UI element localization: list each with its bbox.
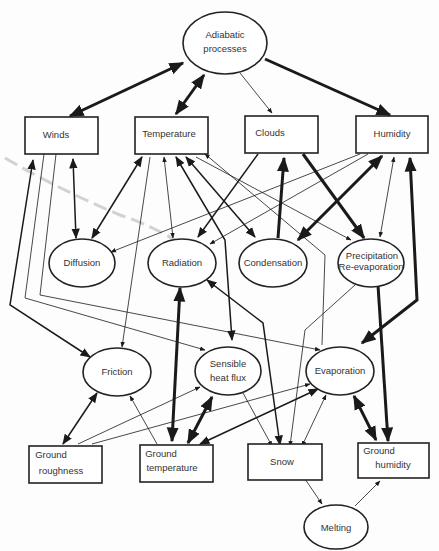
edge-condensation-clouds xyxy=(278,158,284,238)
node-winds: Winds xyxy=(25,117,98,154)
scan-smudge xyxy=(5,158,175,240)
diagram-svg: Adiabatic processes Winds Temperature Cl… xyxy=(0,0,439,551)
edge-adiabatic-winds xyxy=(70,63,183,116)
svg-text:Condensation: Condensation xyxy=(244,257,303,268)
node-ground-roughness: Ground roughness xyxy=(29,446,102,483)
svg-text:processes: processes xyxy=(203,43,247,54)
node-adiabatic-processes: Adiabatic processes xyxy=(183,12,267,74)
edge-temperature-friction xyxy=(122,157,150,347)
node-ground-temperature: Ground temperature xyxy=(140,445,213,482)
svg-text:Precipitation: Precipitation xyxy=(346,250,398,261)
edge-melting-groundhumidity xyxy=(355,481,380,506)
edge-evaporation-groundhumidity xyxy=(354,396,376,440)
svg-text:Ground: Ground xyxy=(35,449,67,460)
edge-temperature-condensation xyxy=(186,157,255,237)
edge-temperature-precipitation xyxy=(196,157,351,240)
edge-temperature-radiation xyxy=(164,157,173,238)
svg-text:Friction: Friction xyxy=(101,366,132,377)
svg-text:Melting: Melting xyxy=(321,522,352,533)
edge-humidity-condensation xyxy=(298,156,382,240)
node-condensation: Condensation xyxy=(239,239,307,287)
node-snow: Snow xyxy=(248,444,322,480)
edge-adiabatic-clouds xyxy=(240,73,272,113)
svg-text:Snow: Snow xyxy=(270,456,294,467)
svg-text:Temperature: Temperature xyxy=(142,128,195,139)
svg-text:Diffusion: Diffusion xyxy=(64,257,101,268)
node-clouds: Clouds xyxy=(245,116,318,153)
svg-text:Radiation: Radiation xyxy=(162,257,202,268)
svg-text:Ground: Ground xyxy=(145,448,177,459)
edge-precipitation-groundhumidity xyxy=(378,285,388,441)
svg-text:heat flux: heat flux xyxy=(210,372,246,383)
node-evaporation: Evaporation xyxy=(306,347,374,395)
edge-adiabatic-temperature xyxy=(176,75,204,114)
node-temperature: Temperature xyxy=(135,117,208,154)
node-melting: Melting xyxy=(304,505,368,549)
svg-text:roughness: roughness xyxy=(39,465,84,476)
edge-temperature-diffusion xyxy=(92,157,142,238)
node-humidity: Humidity xyxy=(356,116,428,153)
node-precipitation-reevaporation: Precipitation Re-evaporation xyxy=(338,239,404,287)
edge-groundtemp-sensible xyxy=(188,397,212,443)
svg-text:Sensible: Sensible xyxy=(210,358,246,369)
node-sensible-heat-flux: Sensible heat flux xyxy=(195,347,261,395)
diagram-canvas: Adiabatic processes Winds Temperature Cl… xyxy=(0,0,439,551)
node-diffusion: Diffusion xyxy=(49,239,115,287)
svg-text:Humidity: Humidity xyxy=(374,128,411,139)
edge-groundroughness-sensible xyxy=(78,387,200,444)
edge-groundtemp-evaporation xyxy=(200,389,318,444)
svg-text:temperature: temperature xyxy=(146,462,197,473)
svg-text:Re-evaporation: Re-evaporation xyxy=(339,261,404,272)
edge-friction-groundroughness xyxy=(63,393,97,444)
node-radiation: Radiation xyxy=(148,239,216,287)
edge-radiation-groundtemp xyxy=(172,288,180,441)
edge-winds-diffusion xyxy=(73,159,76,238)
svg-text:Ground: Ground xyxy=(363,445,395,456)
svg-text:Adiabatic: Adiabatic xyxy=(205,29,244,40)
edge-clouds-radiation xyxy=(198,154,258,237)
edge-sensible-snow xyxy=(243,393,272,446)
edge-snow-melting xyxy=(305,479,322,504)
svg-text:humidity: humidity xyxy=(375,459,411,470)
svg-text:Clouds: Clouds xyxy=(255,127,285,138)
edge-evaporation-snow xyxy=(302,395,326,446)
edge-adiabatic-humidity xyxy=(265,59,390,115)
node-ground-humidity: Ground humidity xyxy=(358,443,429,478)
edge-groundtemp-friction xyxy=(130,396,157,444)
edge-humidity-precipitation xyxy=(380,157,394,237)
svg-text:Evaporation: Evaporation xyxy=(315,365,366,376)
node-friction: Friction xyxy=(83,348,151,396)
edge-humidity-radiation xyxy=(210,154,368,244)
svg-text:Winds: Winds xyxy=(43,129,70,140)
